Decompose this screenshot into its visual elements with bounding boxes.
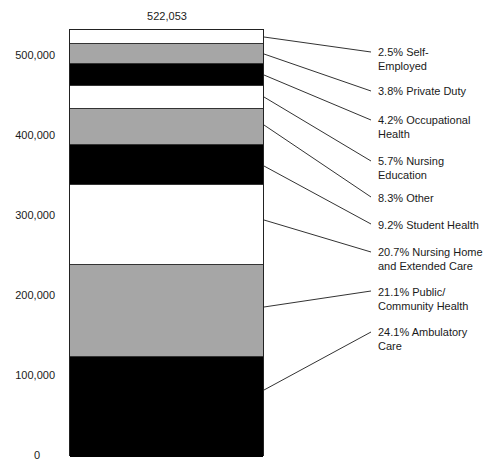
label-line: 20.7% Nursing Home — [378, 245, 492, 259]
label-public-community-health: 21.1% Public/ Community Health — [378, 285, 492, 313]
label-line: and Extended Care — [378, 259, 492, 273]
label-ambulatory-care: 24.1% Ambulatory Care — [378, 325, 492, 353]
label-nursing-education: 5.7% Nursing Education — [378, 154, 492, 182]
label-line: 3.8% Private Duty — [378, 84, 492, 98]
label-line: 24.1% Ambulatory — [378, 325, 492, 339]
label-occupational-health: 4.2% Occupational Health — [378, 113, 492, 141]
label-line: Education — [378, 168, 492, 182]
label-line: 9.2% Student Health — [378, 218, 492, 232]
label-line: 5.7% Nursing — [378, 154, 492, 168]
label-line: Community Health — [378, 299, 492, 313]
label-student-health: 9.2% Student Health — [378, 218, 492, 232]
label-line: Employed — [378, 59, 492, 73]
label-nursing-home: 20.7% Nursing Home and Extended Care — [378, 245, 492, 273]
label-line: 8.3% Other — [378, 191, 492, 205]
label-line: 4.2% Occupational — [378, 113, 492, 127]
label-self-employed: 2.5% Self- Employed — [378, 45, 492, 73]
label-line: Care — [378, 339, 492, 353]
label-line: 2.5% Self- — [378, 45, 492, 59]
label-other: 8.3% Other — [378, 191, 492, 205]
label-line: Health — [378, 127, 492, 141]
label-private-duty: 3.8% Private Duty — [378, 84, 492, 98]
label-line: 21.1% Public/ — [378, 285, 492, 299]
